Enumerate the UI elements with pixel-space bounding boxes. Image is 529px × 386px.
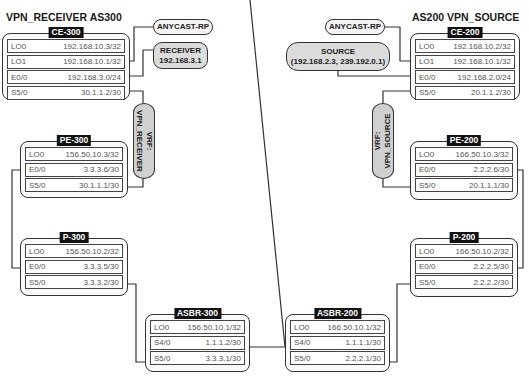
source-pill: SOURCE (192.168.2.3, 239.192.0.1) xyxy=(286,42,390,71)
receiver-pill: RECEIVER 192.168.3.1 xyxy=(153,42,208,69)
interface-ip: 3.3.3.5/30 xyxy=(83,262,119,271)
interface-name: S5/0 xyxy=(294,354,310,363)
interface-name: E0/0 xyxy=(29,165,45,174)
interface-row: S5/03.3.3.1/30 xyxy=(150,351,245,365)
interface-name: LO0 xyxy=(419,150,434,159)
interface-name: E0/0 xyxy=(419,165,435,174)
interface-ip: 192.168.3.0/24 xyxy=(68,73,121,82)
interface-row: LO0156.50.10.3/32 xyxy=(25,147,123,161)
interface-name: S5/0 xyxy=(419,181,435,190)
interface-ip: 166.50.10.1/32 xyxy=(328,323,381,332)
interface-row: S5/02.2.2.1/30 xyxy=(290,351,385,365)
interface-row: E0/0192.168.3.0/24 xyxy=(7,70,125,84)
interface-name: LO0 xyxy=(154,323,169,332)
router-ce200[interactable]: CE-200 LO0192.168.10.2/32 LO1192.168.10.… xyxy=(410,33,520,100)
router-label: ASBR-300 xyxy=(174,308,221,319)
interface-row: LO0192.168.10.3/32 xyxy=(7,39,125,53)
interface-ip: 156.50.10.3/32 xyxy=(66,150,119,159)
interface-name: S4/0 xyxy=(154,338,170,347)
interface-row: LO0156.50.10.2/32 xyxy=(25,244,123,258)
interface-name: S5/0 xyxy=(419,88,435,97)
interface-ip: 156.50.10.2/32 xyxy=(66,247,119,256)
interface-ip: 30.1.1.2/30 xyxy=(81,88,121,97)
vrf-name: VPN_SOURCE xyxy=(383,113,393,168)
interface-name: E0/0 xyxy=(419,262,435,271)
vrf-source-cylinder: VRF: VPN_SOURCE xyxy=(372,103,394,179)
interface-ip: 2.2.2.5/30 xyxy=(473,262,509,271)
interface-ip: 3.3.3.6/30 xyxy=(83,165,119,174)
interface-row: LO0156.50.10.1/32 xyxy=(150,320,245,334)
router-label: CE-200 xyxy=(448,27,483,38)
interface-ip: 2.2.2.6/30 xyxy=(473,165,509,174)
interface-name: S4/0 xyxy=(294,338,310,347)
interface-ip: 192.168.10.3/32 xyxy=(63,42,121,51)
interface-name: E0/0 xyxy=(11,73,27,82)
interface-ip: 156.50.10.1/32 xyxy=(188,323,241,332)
vrf-receiver-label: VRF: VPN_RECEIVER xyxy=(134,110,154,172)
interface-row: E0/03.3.3.5/30 xyxy=(25,260,123,274)
router-pe200[interactable]: PE-200 LO0166.50.10.3/32 E0/02.2.2.6/30 … xyxy=(410,141,518,200)
interface-ip: 2.2.2.2/30 xyxy=(473,278,509,287)
interface-row: S5/020.1.1.2/30 xyxy=(415,86,515,100)
source-group: (192.168.2.3, 239.192.0.1) xyxy=(291,57,385,67)
interface-ip: 192.168.10.2/32 xyxy=(453,42,511,51)
interface-name: S5/0 xyxy=(29,181,45,190)
anycast-rp-left-pill: ANYCAST-RP xyxy=(153,19,213,35)
interface-row: E0/03.3.3.6/30 xyxy=(25,163,123,177)
router-label: PE-300 xyxy=(57,135,91,146)
router-asbr200[interactable]: ASBR-200 LO0166.50.10.1/32 S4/01.1.1.1/3… xyxy=(285,314,390,372)
as200-title: AS200 VPN_SOURCE xyxy=(412,11,519,23)
interface-name: LO0 xyxy=(294,323,309,332)
receiver-label: RECEIVER xyxy=(160,46,201,56)
interface-row: E0/02.2.2.6/30 xyxy=(415,163,513,177)
interface-name: LO0 xyxy=(29,150,44,159)
interface-row: LO0166.50.10.1/32 xyxy=(290,320,385,334)
interface-name: S5/0 xyxy=(154,354,170,363)
source-label: SOURCE xyxy=(321,47,355,57)
anycast-rp-label: ANYCAST-RP xyxy=(157,22,209,32)
network-topology-diagram: VPN_RECEIVER AS300 AS200 VPN_SOURCE CE-3… xyxy=(0,0,529,386)
interface-ip: 20.1.1.1/30 xyxy=(469,181,509,190)
interface-name: LO1 xyxy=(419,57,434,66)
vrf-prefix: VRF: xyxy=(373,113,383,168)
router-label: P-300 xyxy=(60,232,89,243)
anycast-rp-right-pill: ANYCAST-RP xyxy=(325,19,385,35)
router-ce300[interactable]: CE-300 LO0192.168.10.3/32 LO1192.168.10.… xyxy=(2,33,130,100)
interface-ip: 192.168.2.0/24 xyxy=(458,73,511,82)
interface-ip: 3.3.3.2/30 xyxy=(83,278,119,287)
router-asbr300[interactable]: ASBR-300 LO0156.50.10.1/32 S4/01.1.1.2/3… xyxy=(145,314,250,372)
receiver-ip: 192.168.3.1 xyxy=(159,56,201,66)
router-label: PE-200 xyxy=(447,135,481,146)
interface-ip: 1.1.1.2/30 xyxy=(205,338,241,347)
interface-ip: 2.2.2.1/30 xyxy=(345,354,381,363)
interface-row: S5/020.1.1.1/30 xyxy=(415,178,513,192)
interface-ip: 166.50.10.2/32 xyxy=(456,247,509,256)
interface-name: LO0 xyxy=(29,247,44,256)
router-p200[interactable]: P-200 LO0166.50.10.2/32 E0/02.2.2.5/30 S… xyxy=(410,238,518,297)
interface-row: LO1192.168.10.1/32 xyxy=(415,55,515,69)
interface-name: S5/0 xyxy=(29,278,45,287)
interface-ip: 30.1.1.1/30 xyxy=(79,181,119,190)
interface-row: LO0166.50.10.3/32 xyxy=(415,147,513,161)
router-label: ASBR-200 xyxy=(314,308,361,319)
interface-ip: 192.168.10.1/32 xyxy=(453,57,511,66)
router-label: P-200 xyxy=(450,232,479,243)
router-p300[interactable]: P-300 LO0156.50.10.2/32 E0/03.3.3.5/30 S… xyxy=(20,238,128,296)
interface-row: S4/01.1.1.2/30 xyxy=(150,336,245,350)
vrf-receiver-cylinder: VRF: VPN_RECEIVER xyxy=(133,103,155,179)
as300-title: VPN_RECEIVER AS300 xyxy=(6,11,122,23)
interface-row: LO1192.168.10.1/32 xyxy=(7,55,125,69)
router-pe300[interactable]: PE-300 LO0156.50.10.3/32 E0/03.3.3.6/30 … xyxy=(20,141,128,198)
interface-name: LO1 xyxy=(11,57,26,66)
interface-row: S4/01.1.1.1/30 xyxy=(290,336,385,350)
interface-name: E0/0 xyxy=(419,73,435,82)
interface-ip: 192.168.10.1/32 xyxy=(63,57,121,66)
interface-row: E0/0192.168.2.0/24 xyxy=(415,70,515,84)
interface-ip: 20.1.1.2/30 xyxy=(471,88,511,97)
interface-row: S5/02.2.2.2/30 xyxy=(415,275,513,289)
interface-row: S5/030.1.1.1/30 xyxy=(25,178,123,192)
interface-name: LO0 xyxy=(419,42,434,51)
interface-row: LO0192.168.10.2/32 xyxy=(415,39,515,53)
router-label: CE-300 xyxy=(49,27,84,38)
vrf-source-label: VRF: VPN_SOURCE xyxy=(373,113,393,168)
